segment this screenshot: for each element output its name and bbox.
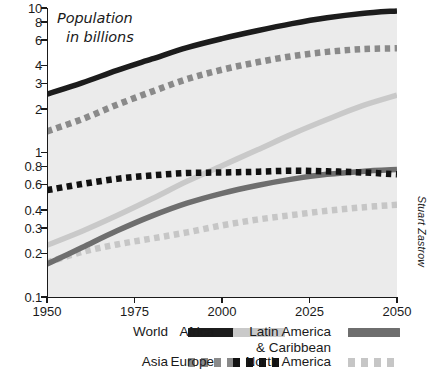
y-tick-mark xyxy=(41,39,47,40)
y-tick-mark xyxy=(41,166,47,167)
y-tick-mark xyxy=(41,209,47,210)
y-tick-mark xyxy=(41,253,47,254)
legend-label: World xyxy=(133,324,168,340)
y-tick-mark xyxy=(41,7,47,8)
y-tick-mark xyxy=(41,184,47,185)
y-tick-mark xyxy=(41,227,47,228)
y-tick-mark xyxy=(41,21,47,22)
plot-area xyxy=(47,8,397,297)
population-chart: 0.10.20.30.40.60.812346810 Population in… xyxy=(0,0,430,380)
legend-label: North America xyxy=(245,354,331,370)
x-tick-label: 2025 xyxy=(295,305,324,318)
credit-text: Stuart Zastrow xyxy=(416,196,428,267)
legend-label: Europe xyxy=(170,354,214,370)
legend-label: Asia xyxy=(142,354,168,370)
axis-title-line2: in billions xyxy=(57,28,134,47)
legend-label: Latin America& Caribbean xyxy=(249,324,331,356)
legend-label-line1: North America xyxy=(245,354,331,369)
axis-title: Population in billions xyxy=(57,9,134,46)
y-tick-mark xyxy=(41,108,47,109)
x-tick-mark xyxy=(221,297,222,303)
legend-label-line1: Latin America xyxy=(249,324,331,339)
plot-svg xyxy=(47,8,397,297)
x-tick-mark xyxy=(309,297,310,303)
x-tick-mark xyxy=(46,297,47,303)
plot-shaded-background xyxy=(47,11,397,297)
x-tick-mark xyxy=(396,297,397,303)
y-tick-mark xyxy=(41,65,47,66)
legend-swatch xyxy=(348,328,400,337)
axis-title-line1: Population xyxy=(57,10,133,26)
y-axis-line xyxy=(47,8,48,298)
x-tick-label: 2050 xyxy=(383,305,412,318)
x-tick-label: 2000 xyxy=(208,305,237,318)
legend-label: Africa xyxy=(179,324,214,340)
x-tick-mark xyxy=(134,297,135,303)
legend-label-line1: World xyxy=(133,324,168,339)
x-tick-label: 1975 xyxy=(120,305,149,318)
legend-label-line1: Africa xyxy=(179,324,214,339)
chart-legend: WorldAfricaLatin America& CaribbeanAsiaE… xyxy=(0,322,430,380)
y-tick-mark xyxy=(41,83,47,84)
legend-label-line1: Asia xyxy=(142,354,168,369)
legend-label-line1: Europe xyxy=(170,354,214,369)
y-tick-mark xyxy=(41,152,47,153)
legend-swatch xyxy=(348,358,400,367)
x-tick-label: 1950 xyxy=(33,305,62,318)
